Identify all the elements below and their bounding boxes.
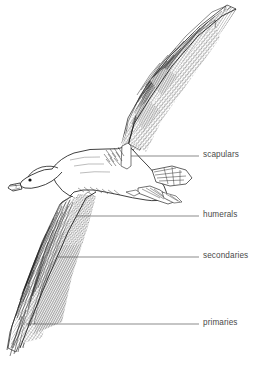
label-primaries: primaries: [203, 319, 238, 327]
figure-root: scapulars humerals secondaries primaries: [0, 0, 263, 367]
left-wing: [0, 185, 110, 360]
albatross-diagram-svg: [0, 0, 263, 367]
label-scapulars: scapulars: [203, 151, 239, 159]
label-humerals: humerals: [203, 211, 237, 219]
right-wing: [110, 0, 250, 160]
label-secondaries: secondaries: [203, 252, 248, 260]
bird-eye: [28, 178, 31, 181]
bird-drawing: [0, 0, 250, 360]
right-wing-coverts: [115, 10, 245, 160]
